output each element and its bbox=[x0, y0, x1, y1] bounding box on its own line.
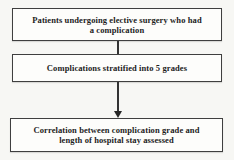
flow-box-grades: Complications stratified into 5 grades bbox=[12, 54, 222, 82]
arrowhead-down-icon bbox=[114, 111, 122, 118]
flowchart-canvas: Patients undergoing elective surgery who… bbox=[0, 0, 234, 160]
flow-box-patients: Patients undergoing elective surgery who… bbox=[12, 8, 222, 41]
flow-box-correlation-line-2: length of hospital stay assessed bbox=[59, 135, 174, 145]
connector-line bbox=[117, 41, 119, 54]
flow-box-patients-line-1: Patients undergoing elective surgery who… bbox=[32, 15, 201, 25]
flow-box-correlation-line-1: Correlation between complication grade a… bbox=[34, 125, 200, 135]
flow-box-patients-line-2: a complication bbox=[90, 25, 145, 35]
flow-box-grades-line-1: Complications stratified into 5 grades bbox=[47, 63, 187, 73]
connector-arrow-shaft bbox=[117, 82, 119, 112]
flow-box-correlation: Correlation between complication grade a… bbox=[10, 118, 223, 152]
